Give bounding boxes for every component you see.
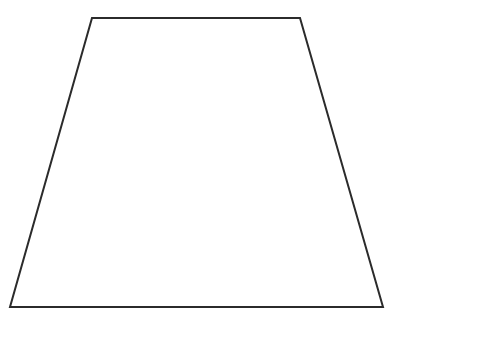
trapezoid-figure [0, 0, 482, 359]
figure-canvas [0, 0, 482, 359]
canvas-background [0, 0, 482, 359]
